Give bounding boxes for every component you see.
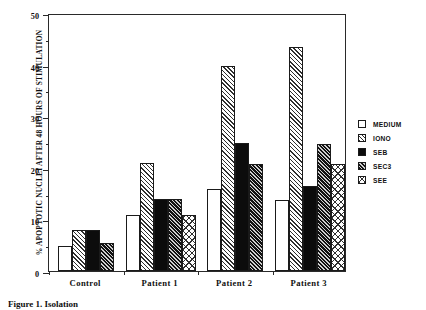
bar-medium-patient-2 [207,189,221,271]
legend-item-sec3[interactable]: SEC3 [358,159,424,173]
bar-seb-patient-1 [154,199,168,271]
x-category-label-patient-1: Patient 1 [142,278,178,288]
bar-seb-control [86,230,100,271]
y-tick-label: 30 [31,115,39,124]
y-tick-20: 20 [43,170,49,171]
legend-swatch-medium [358,120,366,128]
y-tick-minor [46,41,50,42]
legend-item-seb[interactable]: SEB [358,145,424,159]
y-tick-label: 0 [35,270,39,279]
legend-label: SEB [373,149,387,156]
bar-iono-patient-1 [140,163,154,271]
bar-iono-patient-2 [221,66,235,271]
legend-item-medium[interactable]: MEDIUM [358,117,424,131]
y-tick-40: 40 [43,67,49,68]
bar-medium-patient-3 [275,200,289,271]
y-tick-50: 50 [43,15,49,16]
figure-root: % APOPTOTIC NUCLEI AFTER 48 HOURS OF STI… [0,0,426,310]
caption-text: Figure 1. Isolation [8,299,78,309]
y-tick-30: 30 [43,118,49,119]
bar-sec3-patient-2 [249,164,263,271]
legend-swatch-seb [358,148,366,156]
bar-see-patient-3 [331,164,345,271]
bar-seb-patient-3 [303,186,317,271]
y-tick-label: 40 [31,63,39,72]
y-tick-label: 20 [31,166,39,175]
plot-area: 01020304050 [48,14,346,272]
bar-iono-patient-3 [289,47,303,271]
x-category-label-patient-3: Patient 3 [291,278,327,288]
y-tick-minor [46,92,50,93]
y-tick-minor [46,196,50,197]
legend-swatch-sec3 [358,162,366,170]
legend-swatch-see [358,176,366,184]
bar-seb-patient-2 [235,143,249,271]
bar-medium-control [58,246,72,271]
legend-swatch-iono [358,134,366,142]
y-tick-label: 50 [31,12,39,21]
y-tick-minor [46,247,50,248]
y-tick-10: 10 [43,221,49,222]
y-axis-title: % APOPTOTIC NUCLEI AFTER 48 HOURS OF STI… [35,8,44,278]
y-tick-minor [46,144,50,145]
chart-legend: MEDIUMIONOSEBSEC3SEE [358,117,424,187]
bar-iono-control [72,230,86,271]
bar-medium-patient-1 [126,215,140,271]
y-tick-label: 10 [31,218,39,227]
bar-see-patient-1 [182,215,196,271]
legend-label: MEDIUM [373,121,402,128]
figure-caption: Figure 1. Isolation [8,299,420,309]
legend-label: SEC3 [373,163,391,170]
bar-sec3-patient-3 [317,144,331,271]
x-tick [273,271,274,275]
x-tick [124,271,125,275]
bar-sec3-patient-1 [168,199,182,271]
legend-label: IONO [373,135,391,142]
legend-item-iono[interactable]: IONO [358,131,424,145]
x-tick [198,271,199,275]
bar-sec3-control [100,243,114,271]
x-tick [49,271,50,275]
legend-label: SEE [373,177,387,184]
x-category-label-control: Control [70,278,101,288]
x-category-label-patient-2: Patient 2 [216,278,252,288]
legend-item-see[interactable]: SEE [358,173,424,187]
